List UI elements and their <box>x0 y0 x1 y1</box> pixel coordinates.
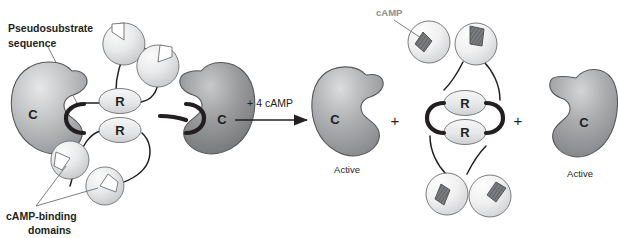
camp-ligand-top-right <box>470 26 484 46</box>
linker-free-lower-right <box>467 146 486 174</box>
c-subunit-left-inactive <box>11 62 87 154</box>
camp-binding-domain-bound-bottom-right <box>469 175 511 217</box>
camp-binding-leader-line-1 <box>36 166 66 206</box>
c-subunit-free-left-active <box>312 67 383 156</box>
linker-free-upper-right <box>484 62 500 100</box>
camp-binding-domain-empty-top-right <box>137 45 179 87</box>
camp-binding-domain-bound-bottom-left <box>426 173 468 215</box>
camp-binding-domain-empty-bottom-left <box>51 141 89 179</box>
c-subunit-left-label: C <box>28 107 38 122</box>
camp-binding-domain-empty-bottom-right <box>86 167 124 205</box>
c-subunit-right-inactive <box>180 62 255 153</box>
r-subunit-upper-free-label: R <box>460 96 470 111</box>
camp-binding-label-line1: cAMP-binding <box>6 210 77 222</box>
c-subunit-free-right-active <box>550 69 618 156</box>
linker-free-upper-left <box>444 62 463 90</box>
c-subunit-free-right-label: C <box>579 115 589 130</box>
pseudosubstrate-free-right <box>486 103 503 133</box>
camp-binding-domain-bound-top-left <box>408 21 450 63</box>
active-label-left: Active <box>334 164 360 175</box>
c-subunit-right-label: C <box>217 112 227 127</box>
r-subunit-upper-label: R <box>115 94 125 109</box>
pseudosubstrate-free-left <box>427 103 444 133</box>
pseudosubstrate-link <box>160 116 186 120</box>
camp-binding-label-line2: domains <box>28 224 71 236</box>
camp-binding-leader-line-2 <box>36 188 98 206</box>
pseudosubstrate-label-line2: sequence <box>8 37 57 49</box>
c-subunit-free-left-label: C <box>330 112 340 127</box>
pseudosubstrate-label-line1: Pseudosubstrate <box>8 22 93 34</box>
active-label-right: Active <box>567 168 593 179</box>
linker-free-lower-left <box>430 136 446 174</box>
camp-ligand-label: cAMP <box>376 7 403 18</box>
plus-sign-2: + <box>514 112 523 129</box>
reaction-arrow-label: + 4 cAMP <box>247 97 293 109</box>
plus-sign-1: + <box>391 112 400 129</box>
r-subunit-lower-label: R <box>115 123 125 138</box>
r-subunit-lower-free-label: R <box>460 125 470 140</box>
pka-activation-figure: C C R R <box>0 0 618 238</box>
camp-binding-domain-bound-top-right <box>455 23 497 65</box>
